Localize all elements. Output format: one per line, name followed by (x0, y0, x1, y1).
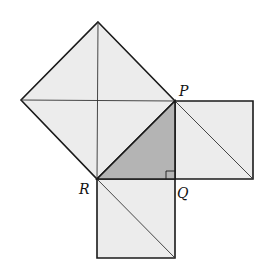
label-p: P (178, 83, 189, 99)
label-q: Q (177, 185, 189, 201)
label-r: R (78, 181, 90, 197)
pythagorean-diagram: P Q R (0, 0, 268, 275)
